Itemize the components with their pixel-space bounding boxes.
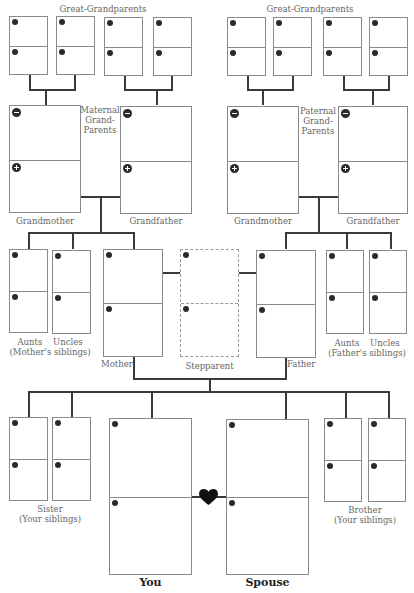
box-bottom-half[interactable]	[274, 47, 311, 75]
box-bottom-half[interactable]	[325, 460, 361, 501]
box-bottom-half[interactable]	[227, 497, 308, 574]
box-top-half[interactable]	[53, 418, 90, 459]
connector-line	[171, 76, 173, 90]
connector-line	[388, 76, 390, 90]
you-box[interactable]	[109, 418, 192, 575]
connector-line	[124, 76, 126, 90]
box-top-half[interactable]	[327, 251, 363, 292]
box-bottom-half[interactable]	[324, 47, 361, 75]
marker-icon	[371, 463, 377, 469]
box-bottom-half[interactable]	[339, 161, 407, 213]
uncle-box-paternal[interactable]	[369, 250, 407, 334]
aunt-box-maternal[interactable]	[9, 249, 48, 333]
box-bottom-half[interactable]	[121, 161, 191, 213]
minus-circle-icon	[230, 109, 239, 118]
paternal-grandfather-box[interactable]	[338, 106, 408, 214]
box-top-half[interactable]	[10, 17, 47, 46]
box-top-half[interactable]	[105, 18, 142, 47]
maternal-grandmother-box[interactable]	[9, 105, 81, 213]
box-bottom-half[interactable]	[10, 160, 80, 212]
box-bottom-half[interactable]	[327, 292, 363, 333]
great-grandparent-box-6[interactable]	[273, 17, 312, 76]
box-bottom-half[interactable]	[10, 459, 47, 500]
marker-icon	[276, 20, 282, 26]
sister-box-1[interactable]	[9, 417, 48, 501]
box-top-half[interactable]	[369, 419, 405, 460]
connector-line	[124, 89, 173, 91]
great-grandparent-box-4[interactable]	[153, 17, 192, 76]
box-top-half[interactable]	[154, 18, 191, 47]
aunt-box-paternal[interactable]	[326, 250, 364, 334]
box-bottom-half[interactable]	[370, 292, 406, 333]
fathers-siblings-sublabel: (Father's siblings)	[320, 348, 414, 358]
marker-icon	[276, 50, 282, 56]
mother-box[interactable]	[103, 249, 163, 357]
connector-line	[285, 391, 287, 419]
box-bottom-half[interactable]	[105, 47, 142, 75]
box-top-half[interactable]	[10, 250, 47, 291]
great-grandparent-box-3[interactable]	[104, 17, 143, 76]
sister-box-2[interactable]	[52, 417, 91, 501]
box-top-half[interactable]	[274, 18, 311, 47]
stepparent-label: Stepparent	[180, 361, 239, 371]
box-bottom-half[interactable]	[53, 292, 90, 333]
box-bottom-half[interactable]	[228, 161, 298, 213]
maternal-grandfather-box[interactable]	[120, 106, 192, 214]
box-top-half[interactable]	[228, 18, 265, 47]
box-bottom-half[interactable]	[369, 460, 405, 501]
box-top-half[interactable]	[257, 251, 315, 304]
box-bottom-half[interactable]	[154, 47, 191, 75]
connector-line	[28, 391, 30, 418]
box-bottom-half[interactable]	[181, 303, 238, 356]
box-top-half[interactable]	[121, 107, 191, 161]
great-grandparent-box-2[interactable]	[56, 16, 95, 75]
box-top-half[interactable]	[339, 107, 407, 161]
connector-line	[345, 391, 347, 418]
box-bottom-half[interactable]	[10, 291, 47, 332]
marker-icon	[156, 50, 162, 56]
box-top-half[interactable]	[181, 250, 238, 303]
great-grandparent-box-1[interactable]	[9, 16, 48, 75]
paternal-grandparents-heading: Paternal Grand- Parents	[298, 106, 338, 137]
box-top-half[interactable]	[57, 17, 94, 46]
box-bottom-half[interactable]	[110, 497, 191, 574]
marker-icon	[59, 19, 65, 25]
box-top-half[interactable]	[325, 419, 361, 460]
uncle-box-maternal[interactable]	[52, 250, 91, 334]
brother-box-2[interactable]	[368, 418, 406, 502]
box-top-half[interactable]	[227, 420, 308, 497]
box-bottom-half[interactable]	[370, 47, 407, 75]
box-bottom-half[interactable]	[53, 459, 90, 500]
box-bottom-half[interactable]	[57, 46, 94, 74]
box-top-half[interactable]	[370, 251, 406, 292]
box-bottom-half[interactable]	[228, 47, 265, 75]
stepparent-box[interactable]	[180, 249, 239, 357]
marker-icon	[372, 50, 378, 56]
box-bottom-half[interactable]	[257, 304, 315, 357]
marker-icon	[12, 49, 18, 55]
maternal-grandmother-label: Grandmother	[9, 216, 81, 226]
box-top-half[interactable]	[53, 251, 90, 292]
heading-line: Paternal	[298, 106, 338, 116]
box-bottom-half[interactable]	[10, 46, 47, 74]
box-bottom-half[interactable]	[104, 303, 162, 356]
marker-icon	[372, 20, 378, 26]
box-top-half[interactable]	[370, 18, 407, 47]
box-top-half[interactable]	[10, 106, 80, 160]
marker-icon	[229, 500, 235, 506]
connector-line	[343, 76, 345, 90]
spouse-label: Spouse	[226, 576, 309, 589]
box-top-half[interactable]	[110, 419, 191, 497]
paternal-grandmother-box[interactable]	[227, 106, 299, 214]
great-grandparent-box-5[interactable]	[227, 17, 266, 76]
box-top-half[interactable]	[228, 107, 298, 161]
box-top-half[interactable]	[104, 250, 162, 303]
great-grandparent-box-7[interactable]	[323, 17, 362, 76]
great-grandparent-box-8[interactable]	[369, 17, 408, 76]
box-top-half[interactable]	[10, 418, 47, 459]
spouse-box[interactable]	[226, 419, 309, 575]
marker-icon	[107, 20, 113, 26]
brother-box-1[interactable]	[324, 418, 362, 502]
father-box[interactable]	[256, 250, 316, 358]
box-top-half[interactable]	[324, 18, 361, 47]
